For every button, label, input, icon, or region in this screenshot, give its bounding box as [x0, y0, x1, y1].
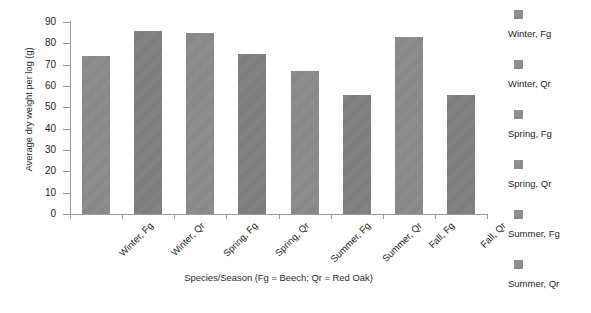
- y-axis-tick: [63, 65, 70, 66]
- y-axis-tick-label: 30: [16, 144, 56, 155]
- x-axis-tick: [226, 214, 227, 219]
- x-axis-tick: [174, 214, 175, 219]
- x-axis-label: Winter, Fg: [117, 220, 155, 258]
- legend-label: Summer, Fg: [508, 228, 560, 239]
- x-axis-label: Fall, Fg: [426, 220, 456, 250]
- x-axis-tick: [331, 214, 332, 219]
- y-axis-tick-label: 10: [16, 187, 56, 198]
- y-axis-tick: [63, 129, 70, 130]
- legend-swatch: [514, 10, 523, 19]
- x-axis-label: Fall, Qr: [478, 220, 508, 250]
- legend-swatch: [514, 60, 523, 69]
- bar-spring-fg: [186, 33, 214, 214]
- bar-spring-qr: [238, 54, 266, 214]
- x-axis-tick: [279, 214, 280, 219]
- y-axis-tick-label: 40: [16, 123, 56, 134]
- y-axis-tick-label: 60: [16, 80, 56, 91]
- legend-label: Spring, Qr: [508, 178, 551, 189]
- x-axis-label: Winter, Qr: [169, 220, 207, 258]
- y-axis-tick: [63, 150, 70, 151]
- y-axis-tick: [63, 193, 70, 194]
- legend-item: Winter, Fg: [505, 10, 591, 42]
- y-axis-tick: [63, 171, 70, 172]
- y-axis-tick: [63, 214, 70, 215]
- y-axis-tick: [63, 86, 70, 87]
- chart-legend: Winter, FgWinter, QrSpring, FgSpring, Qr…: [505, 0, 591, 313]
- x-axis-label: Spring, Fg: [221, 220, 260, 259]
- x-axis-tick: [70, 214, 71, 219]
- x-axis-title: Species/Season (Fg = Beech; Qr = Red Oak…: [70, 272, 487, 283]
- y-axis-tick-label: 50: [16, 101, 56, 112]
- y-axis-tick: [63, 22, 70, 23]
- legend-item: Spring, Qr: [505, 160, 591, 192]
- legend-label: Winter, Qr: [508, 78, 551, 89]
- legend-item: Winter, Qr: [505, 60, 591, 92]
- legend-label: Winter, Fg: [508, 28, 551, 39]
- bar-summer-fg: [291, 71, 319, 214]
- y-axis-tick-label: 90: [16, 16, 56, 27]
- bar-fall-qr: [447, 95, 475, 214]
- legend-item: Summer, Qr: [505, 260, 591, 292]
- bar-winter-fg: [82, 56, 110, 214]
- y-axis-tick: [63, 43, 70, 44]
- legend-swatch: [514, 210, 523, 219]
- y-axis-tick-label: 0: [16, 208, 56, 219]
- y-axis-tick-label: 20: [16, 165, 56, 176]
- legend-swatch: [514, 110, 523, 119]
- x-axis-tick: [435, 214, 436, 219]
- y-axis-tick-label: 70: [16, 59, 56, 70]
- legend-label: Summer, Qr: [508, 278, 559, 289]
- x-axis-label: Summer, Qr: [380, 220, 424, 264]
- y-axis-tick-label: 80: [16, 37, 56, 48]
- bar-winter-qr: [134, 31, 162, 214]
- legend-swatch: [514, 160, 523, 169]
- plot-area: [70, 22, 487, 214]
- bar-chart-figure: Average dry weight per log (g) 908070605…: [0, 0, 591, 313]
- x-axis-label: Summer, Fg: [328, 220, 372, 264]
- legend-swatch: [514, 260, 523, 269]
- x-axis-tick: [487, 214, 488, 219]
- x-axis-tick: [383, 214, 384, 219]
- x-axis-label: Spring, Qr: [273, 220, 311, 258]
- legend-item: Spring, Fg: [505, 110, 591, 142]
- legend-label: Spring, Fg: [508, 128, 552, 139]
- bar-summer-qr: [343, 95, 371, 214]
- x-axis-tick: [122, 214, 123, 219]
- y-axis-tick: [63, 107, 70, 108]
- bar-fall-fg: [395, 37, 423, 214]
- legend-item: Summer, Fg: [505, 210, 591, 242]
